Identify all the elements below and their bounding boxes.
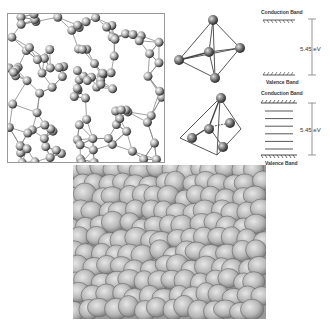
sphere-packing-panel (73, 165, 266, 319)
tetrahedra-panel (165, 5, 255, 160)
valence-band-label: Valence Band (266, 79, 299, 85)
amorphous-network-illustration (8, 14, 165, 163)
valence-band-label: Valence Band (265, 160, 298, 165)
band-diagrams-panel: Conduction Band 5.45 eV Valence Band Con… (255, 5, 330, 165)
band-gap-label: 5.45 eV (300, 46, 321, 52)
band-diagrams-illustration: Conduction Band 5.45 eV Valence Band Con… (255, 5, 330, 165)
amorphous-network-panel (7, 13, 165, 163)
tetrahedra-illustration (165, 5, 255, 160)
conduction-band-label: Conduction Band (261, 90, 303, 96)
conduction-band-label: Conduction Band (261, 9, 303, 15)
band-diagram-crystalline: Conduction Band 5.45 eV Valence Band (261, 9, 321, 85)
band-gap-label: 5.45 eV (300, 127, 321, 133)
sphere-packing-illustration (73, 165, 266, 319)
band-diagram-amorphous: Conduction Band 5.45 eV Valence Band (261, 90, 321, 165)
